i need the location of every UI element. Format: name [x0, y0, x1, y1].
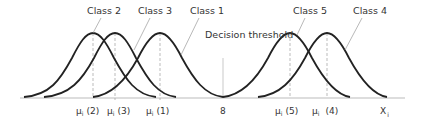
- leader-class-2: [93, 18, 101, 33]
- leader-class-5: [297, 18, 305, 35]
- label-class-5: Class 5: [293, 5, 327, 16]
- mean-label-class-3: μi(3): [107, 106, 130, 117]
- leader-class-4: [345, 18, 362, 50]
- leader-class-3: [134, 18, 150, 50]
- label-class-2: Class 2: [87, 5, 121, 16]
- mean-label-class-1: μi(1): [146, 106, 169, 117]
- threshold-value: 8: [220, 106, 226, 116]
- leader-class-1: [181, 18, 199, 55]
- label-class-4: Class 4: [353, 5, 387, 16]
- label-class-3: Class 3: [138, 5, 172, 16]
- class-distribution-diagram: Class 2 Class 3 Class 1 Class 5 Class 4 …: [0, 0, 425, 124]
- curve-class-1: [93, 33, 223, 97]
- mean-label-class-4: μi(4): [312, 106, 338, 117]
- mean-label-class-2: μi(2): [76, 106, 99, 117]
- mean-label-class-5: μi(5): [275, 106, 298, 117]
- label-class-1: Class 1: [190, 5, 224, 16]
- label-decision-threshold: Decision threshold: [205, 29, 293, 40]
- curve-class-3: [44, 33, 176, 97]
- curve-class-5: [223, 33, 350, 97]
- x-axis-label: Xi: [380, 106, 389, 118]
